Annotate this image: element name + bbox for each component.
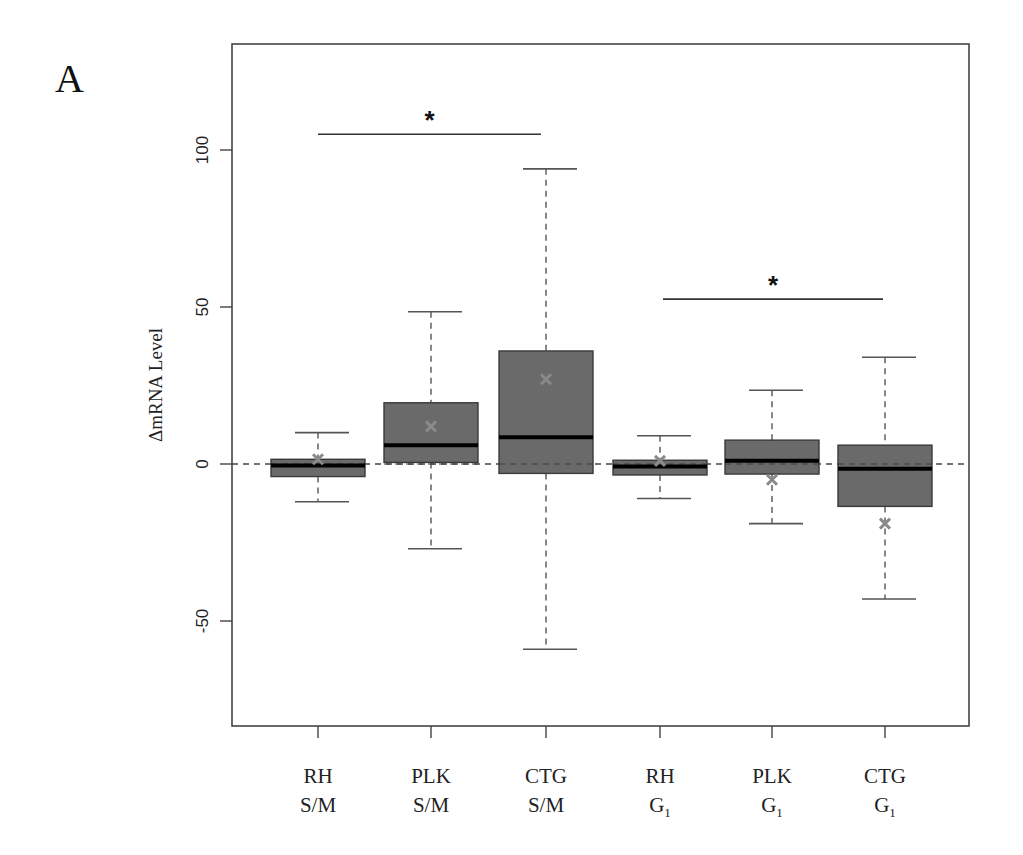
box-rh-s-m (271, 433, 365, 502)
iqr-box (499, 351, 593, 473)
x-category-label-line1: RH (645, 764, 674, 788)
x-category-subscript: 1 (776, 805, 783, 820)
x-category-label-line2: S/M (300, 793, 337, 817)
boxplot-figure: A ΔmRNA Level -50050100 ** RHS/MPLKS/MCT… (0, 0, 1023, 855)
box-series (271, 169, 932, 649)
box-plk-s-m (384, 312, 478, 549)
box-ctg-g1 (838, 357, 932, 599)
iqr-box (271, 459, 365, 476)
y-tick-label: 50 (193, 298, 212, 317)
iqr-box (384, 403, 478, 463)
y-axis-title: ΔmRNA Level (145, 328, 166, 442)
x-category-label-line1: CTG (525, 764, 567, 788)
significance-annotations: ** (318, 105, 883, 300)
x-category-label-line2: S/M (528, 793, 565, 817)
box-ctg-s-m (499, 169, 593, 649)
y-tick-label: -50 (193, 609, 212, 634)
x-category-label-line1: PLK (411, 764, 451, 788)
x-axis: RHS/MPLKS/MCTGS/MRHG1PLKG1CTGG1 (300, 726, 906, 820)
x-category-label-line2: G1 (874, 793, 896, 820)
y-axis: -50050100 (193, 136, 232, 633)
plot-frame (232, 44, 969, 726)
x-category-label-line2: G1 (649, 793, 671, 820)
iqr-box (725, 440, 819, 474)
x-category-label-line1: PLK (752, 764, 792, 788)
y-axis-title-text: ΔmRNA Level (145, 328, 166, 442)
y-tick-label: 0 (193, 459, 212, 468)
y-tick-label: 100 (193, 136, 212, 164)
iqr-box (838, 445, 932, 506)
box-plk-g1 (725, 390, 819, 523)
x-category-label-line2: S/M (413, 793, 450, 817)
x-category-label-line1: CTG (864, 764, 906, 788)
x-category-label-line1: RH (303, 764, 332, 788)
significance-star: * (424, 105, 435, 135)
panel-label: A (55, 56, 84, 101)
box-rh-g1 (613, 436, 707, 499)
x-category-label-line2: G1 (761, 793, 783, 820)
x-category-subscript: 1 (664, 805, 671, 820)
significance-star: * (768, 270, 779, 300)
x-category-subscript: 1 (889, 805, 896, 820)
